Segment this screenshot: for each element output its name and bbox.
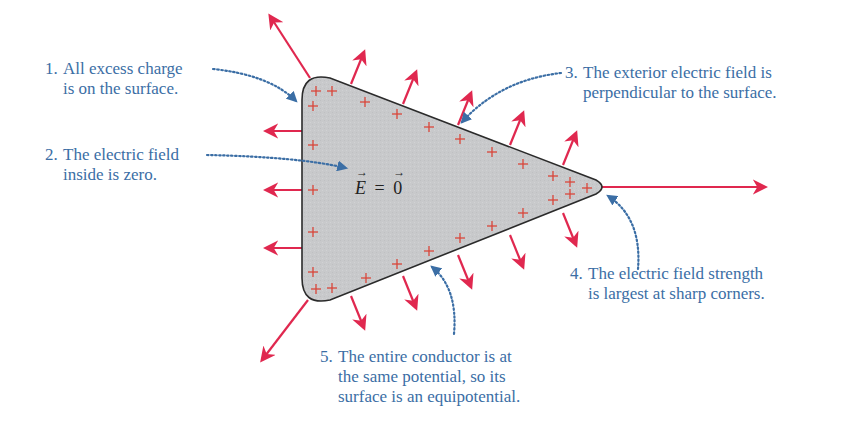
annotation-2: 2.The electric field inside is zero. xyxy=(45,145,179,185)
annotation-number: 4. xyxy=(570,264,588,284)
leader-1 xyxy=(213,69,296,101)
field-arrow-icon xyxy=(403,276,416,308)
field-arrow-icon xyxy=(262,300,308,360)
leader-5 xyxy=(432,267,455,334)
equals-sign: = xyxy=(375,178,385,198)
field-arrow-icon xyxy=(563,133,576,165)
field-arrow-icon xyxy=(563,213,576,245)
interior-field-equation: → E = → 0 xyxy=(355,178,402,199)
field-arrow-icon xyxy=(270,16,310,78)
annotation-number: 1. xyxy=(45,59,63,79)
field-arrow-icon xyxy=(403,72,416,104)
annotation-1: 1.All excess charge is on the surface. xyxy=(45,59,183,99)
conductor-body xyxy=(302,77,602,301)
leader-3 xyxy=(462,73,561,122)
field-arrow-icon xyxy=(351,296,364,328)
field-arrow-icon xyxy=(351,52,364,84)
annotation-number: 5. xyxy=(320,347,338,367)
annotation-number: 2. xyxy=(45,145,63,165)
field-symbol: E xyxy=(355,178,366,198)
annotation-number: 3. xyxy=(565,63,583,83)
annotation-4: 4.The electric field strength is largest… xyxy=(570,264,765,304)
field-arrow-icon xyxy=(510,235,523,267)
conductor-diagram: → E = → 0 1.All excess charge is on the … xyxy=(0,0,853,430)
leader-4 xyxy=(608,196,638,269)
field-arrow-icon xyxy=(510,113,523,145)
zero-vector: 0 xyxy=(393,178,402,198)
field-arrow-icon xyxy=(458,255,471,287)
annotation-3: 3.The exterior electric field is perpend… xyxy=(565,63,777,103)
annotation-5: 5.The entire conductor is at the same po… xyxy=(320,347,520,407)
